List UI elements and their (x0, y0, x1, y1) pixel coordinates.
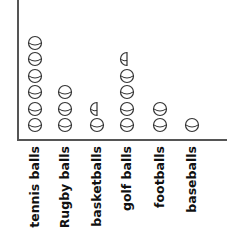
ball-icon (119, 117, 135, 133)
ball-icon (119, 84, 135, 100)
half-ball-icon (89, 101, 105, 117)
x-axis (17, 139, 227, 141)
ball-icon (27, 68, 43, 84)
ball-icon (184, 117, 200, 133)
ball-icon (27, 117, 43, 133)
ball-icon (89, 117, 105, 133)
label-basketballs: basketballs (89, 146, 105, 236)
ball-icon (57, 101, 73, 117)
ball-icon (57, 117, 73, 133)
label-baseballs: baseballs (184, 146, 200, 236)
ball-icon (152, 101, 168, 117)
label-footballs: footballs (152, 146, 168, 236)
label-golf-balls: golf balls (119, 146, 135, 236)
ball-icon (27, 84, 43, 100)
ball-icon (27, 101, 43, 117)
ball-icon (27, 35, 43, 51)
ball-icon (57, 84, 73, 100)
label-rugby-balls: Rugby balls (57, 146, 73, 236)
y-axis (17, 0, 19, 141)
ball-icon (27, 51, 43, 67)
half-ball-icon (119, 51, 135, 67)
ball-icon (152, 117, 168, 133)
ball-icon (119, 68, 135, 84)
pictograph-chart: tennis balls Rugby balls basketballs gol… (0, 0, 239, 242)
ball-icon (119, 101, 135, 117)
label-tennis-balls: tennis balls (27, 146, 43, 236)
